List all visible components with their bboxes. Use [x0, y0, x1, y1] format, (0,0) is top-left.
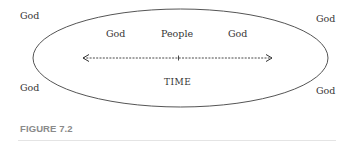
label-people: People: [161, 29, 193, 39]
figure-caption: FIGURE 7.2: [20, 123, 73, 134]
label-god-top-right: God: [316, 14, 335, 24]
label-god-inner-right: God: [228, 29, 247, 39]
diagram-canvas: [0, 0, 356, 120]
label-time: TIME: [164, 78, 191, 87]
label-god-top-left: God: [20, 11, 39, 21]
label-god-bottom-left: God: [20, 83, 39, 93]
label-god-bottom-right: God: [316, 86, 335, 96]
caption-divider: [18, 140, 336, 141]
label-god-inner-left: God: [106, 29, 125, 39]
